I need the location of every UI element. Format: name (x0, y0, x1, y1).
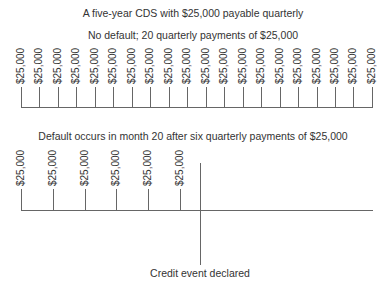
payment-label: $25,000 (16, 150, 26, 186)
payment-tick (95, 87, 96, 107)
payment-tick (76, 87, 77, 107)
default-caption: Default occurs in month 20 after six qua… (0, 130, 386, 142)
payment-tick (58, 87, 59, 107)
payment-label: $25,000 (182, 48, 192, 84)
payment-tick (21, 87, 22, 107)
payment-label: $25,000 (111, 150, 121, 186)
payment-label: $25,000 (164, 48, 174, 84)
no-default-caption: No default; 20 quarterly payments of $25… (0, 29, 386, 41)
payment-tick (317, 87, 318, 107)
payment-tick (53, 189, 54, 210)
timeline-axis (21, 210, 373, 211)
payment-tick (335, 87, 336, 107)
payment-tick (187, 87, 188, 107)
payment-label: $25,000 (71, 48, 81, 84)
payment-label: $25,000 (175, 150, 185, 186)
payment-label: $25,000 (34, 48, 44, 84)
payment-label: $25,000 (201, 48, 211, 84)
payment-tick (169, 87, 170, 107)
payment-tick (298, 87, 299, 107)
payment-tick (261, 87, 262, 107)
payment-label: $25,000 (219, 48, 229, 84)
payment-tick (85, 189, 86, 210)
payment-tick (132, 87, 133, 107)
payment-tick (150, 87, 151, 107)
payment-label: $25,000 (348, 48, 358, 84)
credit-event-marker (200, 163, 201, 265)
payment-label: $25,000 (293, 48, 303, 84)
payment-label: $25,000 (367, 48, 377, 84)
payment-tick (148, 189, 149, 210)
payment-label: $25,000 (275, 48, 285, 84)
payment-tick (280, 87, 281, 107)
payment-label: $25,000 (145, 48, 155, 84)
payment-tick (243, 87, 244, 107)
payment-label: $25,000 (143, 150, 153, 186)
payment-label: $25,000 (330, 48, 340, 84)
payment-label: $25,000 (312, 48, 322, 84)
payment-tick (21, 189, 22, 210)
payment-label: $25,000 (16, 48, 26, 84)
payment-tick (39, 87, 40, 107)
payment-tick (224, 87, 225, 107)
payment-tick (372, 87, 373, 107)
credit-event-label: Credit event declared (140, 267, 260, 279)
payment-tick (180, 189, 181, 210)
payment-label: $25,000 (238, 48, 248, 84)
payment-tick (116, 189, 117, 210)
payment-tick (353, 87, 354, 107)
payment-label: $25,000 (53, 48, 63, 84)
timeline-axis (21, 107, 373, 108)
payment-label: $25,000 (90, 48, 100, 84)
payment-tick (113, 87, 114, 107)
payment-label: $25,000 (48, 150, 58, 186)
payment-label: $25,000 (256, 48, 266, 84)
payment-label: $25,000 (80, 150, 90, 186)
payment-label: $25,000 (127, 48, 137, 84)
payment-label: $25,000 (108, 48, 118, 84)
payment-tick (206, 87, 207, 107)
diagram-title: A five-year CDS with $25,000 payable qua… (0, 7, 386, 19)
